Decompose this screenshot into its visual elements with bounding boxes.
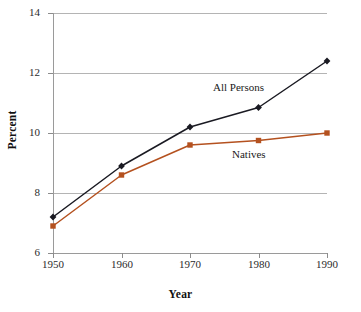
data-point-all-persons-1990 <box>324 58 331 65</box>
series-label-natives: Natives <box>232 148 266 160</box>
y-tick-label-14: 14 <box>14 7 40 18</box>
series-line-natives <box>53 133 327 226</box>
data-point-all-persons-1960 <box>118 163 125 170</box>
x-tick-label-1970: 1970 <box>168 258 212 270</box>
y-tick-mark-10 <box>48 133 53 134</box>
gridline-8 <box>53 193 327 194</box>
gridline-10 <box>53 133 327 134</box>
gridline-14 <box>53 13 327 14</box>
x-tick-label-1980: 1980 <box>237 258 281 270</box>
line-chart: 68101214 19501960197019801990 Percent Ye… <box>0 0 361 312</box>
data-point-all-persons-1980 <box>255 104 262 111</box>
x-tick-label-1960: 1960 <box>100 258 144 270</box>
data-point-natives-1970 <box>187 142 192 147</box>
y-axis-title: Percent <box>6 94 18 166</box>
series-label-all-persons: All Persons <box>213 81 264 93</box>
y-tick-label-6: 6 <box>14 247 40 258</box>
data-point-natives-1980 <box>256 138 261 143</box>
data-point-all-persons-1970 <box>187 124 194 131</box>
y-tick-mark-14 <box>48 13 53 14</box>
y-tick-mark-8 <box>48 193 53 194</box>
y-tick-mark-12 <box>48 73 53 74</box>
data-point-natives-1960 <box>119 172 124 177</box>
y-tick-label-8: 8 <box>14 187 40 198</box>
gridline-12 <box>53 73 327 74</box>
y-tick-label-12: 12 <box>14 67 40 78</box>
x-axis-title: Year <box>0 288 361 300</box>
y-axis-line <box>53 13 54 253</box>
x-tick-label-1950: 1950 <box>31 258 75 270</box>
x-tick-label-1990: 1990 <box>305 258 349 270</box>
